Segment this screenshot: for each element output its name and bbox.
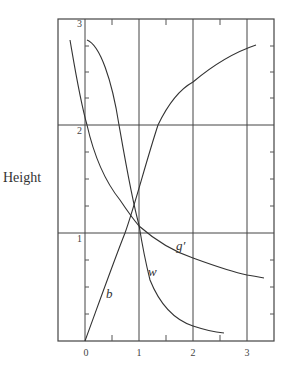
x-tick-0: 0 — [84, 347, 89, 358]
x-minor-ticks — [112, 19, 220, 341]
x-tick-1: 1 — [137, 347, 142, 358]
curve-label-g-prime: g′ — [176, 238, 186, 253]
horizontal-gridlines — [58, 125, 274, 233]
right-minor-ticks — [270, 46, 274, 314]
x-tick-2: 2 — [191, 347, 196, 358]
y-tick-2: 2 — [77, 125, 82, 136]
chart-canvas: 3 2 1 0 1 2 3 b w g′ — [0, 0, 290, 372]
curve-label-w: w — [148, 264, 157, 279]
x-tick-3: 3 — [245, 347, 250, 358]
y-minor-ticks — [85, 46, 89, 314]
y-tick-1: 1 — [77, 233, 82, 244]
curve-g-prime — [70, 40, 264, 278]
curve-label-b: b — [106, 286, 113, 301]
y-tick-3: 3 — [77, 18, 82, 29]
plot-frame — [58, 19, 274, 341]
